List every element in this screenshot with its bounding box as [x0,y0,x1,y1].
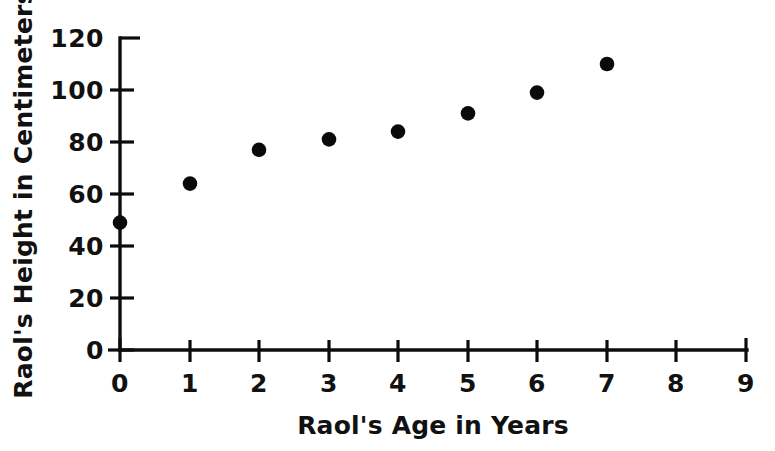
data-point [252,143,267,158]
chart-canvas: 0 20 40 60 80 100 120 0 1 2 3 4 [0,0,775,451]
y-axis-title: Raol's Height in Centimeters [9,0,38,399]
data-point [530,85,545,100]
y-tick-label-40: 40 [68,232,104,261]
x-tick-label-6: 6 [528,369,546,398]
x-tick-label-5: 5 [459,369,477,398]
x-tick-label-4: 4 [389,369,407,398]
x-tick-label-2: 2 [250,369,268,398]
y-tick-label-0: 0 [86,336,104,365]
y-axis-ticks [108,38,140,350]
y-tick-label-120: 120 [50,24,104,53]
x-axis-tick-labels: 0 1 2 3 4 5 6 7 8 9 [111,369,755,398]
x-axis-title: Raol's Age in Years [297,411,569,440]
y-tick-label-80: 80 [68,128,104,157]
data-point [600,57,615,72]
x-tick-label-8: 8 [667,369,685,398]
y-tick-label-20: 20 [68,284,104,313]
axes-group [120,38,747,350]
data-point [113,215,128,230]
data-point [461,106,476,121]
data-series [113,57,615,230]
x-tick-label-9: 9 [737,369,755,398]
y-tick-label-100: 100 [50,76,104,105]
x-tick-label-7: 7 [598,369,616,398]
data-point [322,132,337,147]
data-point [183,176,198,191]
x-tick-label-1: 1 [181,369,199,398]
y-tick-label-60: 60 [68,180,104,209]
y-axis-tick-labels: 0 20 40 60 80 100 120 [50,24,104,365]
scatter-plot-figure: 0 20 40 60 80 100 120 0 1 2 3 4 [0,0,775,451]
x-tick-label-0: 0 [111,369,129,398]
x-tick-label-3: 3 [320,369,338,398]
data-point [391,124,406,139]
